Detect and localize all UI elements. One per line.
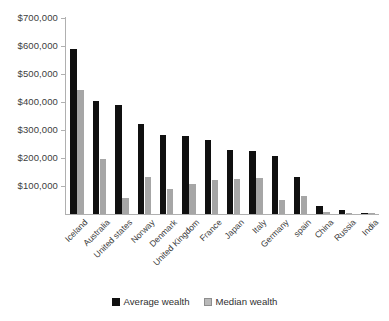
bar-group <box>182 18 195 214</box>
y-tick-label: $200,000 <box>18 153 58 163</box>
bar-median-wealth <box>323 212 329 214</box>
bar-median-wealth <box>301 196 307 214</box>
bar-average-wealth <box>182 136 188 214</box>
bar-average-wealth <box>316 206 322 214</box>
bar-median-wealth <box>346 213 352 214</box>
bar-group <box>160 18 173 214</box>
bar-group <box>361 18 374 214</box>
bar-group <box>93 18 106 214</box>
bar-group <box>70 18 83 214</box>
bar-group <box>294 18 307 214</box>
bar-group <box>227 18 240 214</box>
bar-median-wealth <box>189 184 195 214</box>
bar-group <box>115 18 128 214</box>
chart-legend: Average wealthMedian wealth <box>0 296 389 307</box>
bar-average-wealth <box>361 213 367 214</box>
bar-average-wealth <box>339 210 345 214</box>
y-tick-label: $400,000 <box>18 97 58 107</box>
legend-label: Average wealth <box>124 296 190 307</box>
bar-median-wealth <box>212 180 218 214</box>
y-tick-label: $500,000 <box>18 69 58 79</box>
bar-group <box>249 18 262 214</box>
bar-group <box>316 18 329 214</box>
legend-item: Average wealth <box>112 296 190 307</box>
bar-group <box>339 18 352 214</box>
bar-average-wealth <box>205 140 211 214</box>
bar-average-wealth <box>294 177 300 214</box>
bar-average-wealth <box>115 105 121 214</box>
black-square-icon <box>112 298 120 306</box>
bar-median-wealth <box>368 213 374 214</box>
y-tick-label: $600,000 <box>18 41 58 51</box>
legend-label: Median wealth <box>216 296 278 307</box>
bar-median-wealth <box>100 159 106 214</box>
bar-average-wealth <box>249 151 255 214</box>
y-tick-label: $100,000 <box>18 181 58 191</box>
bar-median-wealth <box>256 178 262 214</box>
x-axis-line <box>65 214 379 215</box>
bar-average-wealth <box>93 101 99 214</box>
bar-median-wealth <box>77 90 83 214</box>
plot-area <box>66 18 379 214</box>
bar-median-wealth <box>234 179 240 214</box>
bar-group <box>138 18 151 214</box>
wealth-bar-chart: $700,000$600,000$500,000$400,000$300,000… <box>0 0 389 321</box>
legend-item: Median wealth <box>204 296 278 307</box>
bar-median-wealth <box>167 189 173 214</box>
bar-median-wealth <box>145 177 151 214</box>
bar-average-wealth <box>70 49 76 214</box>
bar-group <box>205 18 218 214</box>
bar-median-wealth <box>279 200 285 214</box>
bar-average-wealth <box>272 156 278 214</box>
bar-average-wealth <box>138 124 144 214</box>
bar-average-wealth <box>160 135 166 214</box>
gray-square-icon <box>204 298 212 306</box>
bar-average-wealth <box>227 150 233 214</box>
y-tick-label: $300,000 <box>18 125 58 135</box>
y-tick-label: $700,000 <box>18 13 58 23</box>
bar-median-wealth <box>122 198 128 214</box>
bar-group <box>272 18 285 214</box>
